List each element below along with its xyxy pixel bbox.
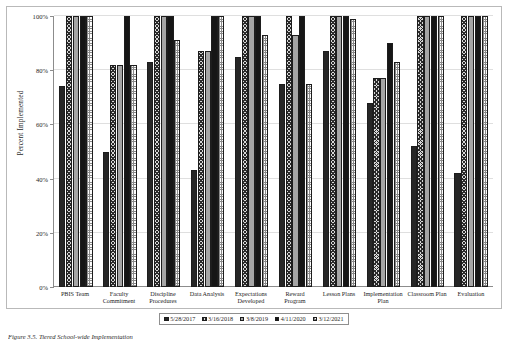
bar-group <box>186 16 230 287</box>
legend-swatch <box>240 317 244 321</box>
bar <box>117 65 123 287</box>
bar <box>191 170 197 287</box>
bar <box>218 16 224 287</box>
bar <box>86 16 92 287</box>
x-axis-tick-label: Evaluation <box>449 290 493 304</box>
legend-label: 4/11/2020 <box>281 315 306 322</box>
bar <box>461 16 467 287</box>
bar <box>299 16 305 287</box>
legend-swatch <box>313 317 317 321</box>
bar <box>438 16 444 287</box>
bar <box>279 84 285 287</box>
legend-box: 5/28/20173/16/20183/8/20194/11/20203/12/… <box>159 313 348 325</box>
bar <box>248 16 254 287</box>
y-axis-tick-label: 40% <box>23 175 48 182</box>
bar <box>482 16 488 287</box>
legend: 5/28/20173/16/20183/8/20194/11/20203/12/… <box>7 313 501 325</box>
legend-label: 5/28/2017 <box>170 315 195 322</box>
bar <box>66 16 72 287</box>
plot-area: 0%20%40%60%80%100% <box>53 16 493 287</box>
bar <box>367 103 373 287</box>
bar <box>154 16 160 287</box>
bar-group <box>361 16 405 287</box>
bar <box>336 16 342 287</box>
bar <box>198 51 204 287</box>
legend-label: 3/8/2019 <box>246 315 268 322</box>
bar-group <box>142 16 186 287</box>
y-axis-tick-label: 20% <box>23 229 48 236</box>
bar <box>431 16 437 287</box>
x-axis-tick-label: PBIS Team <box>53 290 97 304</box>
bar <box>330 16 336 287</box>
x-axis-labels: PBIS TeamFaculty CommitmentDiscipline Pr… <box>53 290 493 304</box>
x-axis-tick-label: Discipline Procedures <box>141 290 185 304</box>
bar <box>350 19 356 287</box>
bar <box>286 16 292 287</box>
bar <box>292 35 298 287</box>
bar <box>124 16 130 287</box>
y-axis-tick-mark <box>50 287 54 288</box>
bar <box>242 16 248 287</box>
bar <box>59 86 65 287</box>
bar-group <box>274 16 318 287</box>
legend-item[interactable]: 5/28/2017 <box>164 315 195 322</box>
legend-item[interactable]: 3/8/2019 <box>240 315 268 322</box>
bar-group <box>230 16 274 287</box>
bar <box>110 65 116 287</box>
x-axis-tick-label: Classroom Plan <box>405 290 449 304</box>
y-axis-tick-label: 100% <box>23 13 48 20</box>
bar <box>468 16 474 287</box>
legend-item[interactable]: 4/11/2020 <box>275 315 306 322</box>
bar <box>130 65 136 287</box>
x-axis-tick-label: Data Analysis <box>185 290 229 304</box>
bar-group <box>98 16 142 287</box>
legend-label: 3/16/2018 <box>208 315 233 322</box>
bar <box>255 16 261 287</box>
legend-item[interactable]: 3/16/2018 <box>202 315 233 322</box>
x-axis-tick-label: Faculty Commitment <box>97 290 141 304</box>
chart-figure: Percent Implemented 0%20%40%60%80%100% P… <box>6 6 502 309</box>
bar <box>417 16 423 287</box>
bar <box>73 16 79 287</box>
bar <box>343 16 349 287</box>
bar <box>306 84 312 287</box>
legend-item[interactable]: 3/12/2021 <box>313 315 344 322</box>
x-axis-tick-label: Implementation Plan <box>361 290 405 304</box>
x-axis-tick-label: Reward Program <box>273 290 317 304</box>
y-axis-tick-label: 80% <box>23 67 48 74</box>
bar <box>205 51 211 287</box>
bar <box>147 62 153 287</box>
bar <box>475 16 481 287</box>
bar <box>80 16 86 287</box>
bar <box>323 51 329 287</box>
bar <box>373 78 379 287</box>
x-axis-tick-label: Expectations Developed <box>229 290 273 304</box>
legend-swatch <box>275 317 279 321</box>
bar <box>387 43 393 287</box>
figure-caption: Figure 3.5. Tiered School-wide Implement… <box>8 333 428 340</box>
bar <box>424 16 430 287</box>
bar <box>411 146 417 287</box>
bar <box>380 78 386 287</box>
bar <box>167 16 173 287</box>
bar-group <box>405 16 449 287</box>
bar <box>211 16 217 287</box>
bar <box>394 62 400 287</box>
bar <box>235 57 241 287</box>
legend-swatch <box>164 317 168 321</box>
legend-label: 3/12/2021 <box>318 315 343 322</box>
x-axis-tick-label: Lesson Plans <box>317 290 361 304</box>
y-axis-tick-label: 60% <box>23 121 48 128</box>
bar-group <box>54 16 98 287</box>
bar <box>262 35 268 287</box>
bar-group <box>449 16 493 287</box>
bar <box>103 152 109 288</box>
bar-groups <box>54 16 493 287</box>
y-axis-tick-label: 0% <box>23 284 48 291</box>
bar-group <box>317 16 361 287</box>
legend-swatch <box>202 317 206 321</box>
bar <box>161 16 167 287</box>
bar <box>454 173 460 287</box>
bar <box>174 40 180 287</box>
